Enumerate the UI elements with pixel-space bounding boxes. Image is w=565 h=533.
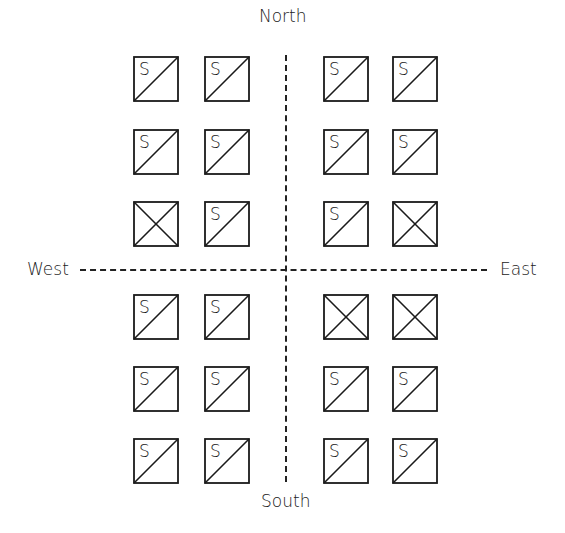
s-diagonal-box-icon: S (133, 56, 179, 102)
crossed-box-icon (392, 201, 438, 247)
label-north: North (259, 8, 307, 25)
svg-text:S: S (329, 59, 340, 79)
s-diagonal-box-icon: S (392, 366, 438, 412)
s-diagonal-box-icon: S (323, 129, 369, 175)
svg-text:S: S (329, 369, 340, 389)
s-diagonal-box-icon: S (204, 438, 250, 484)
s-diagonal-box-icon: S (392, 438, 438, 484)
svg-text:S: S (329, 204, 340, 224)
svg-text:S: S (398, 59, 409, 79)
s-diagonal-box-icon: S (204, 129, 250, 175)
label-east: East (500, 261, 537, 278)
s-diagonal-box-icon: S (323, 56, 369, 102)
label-south: South (261, 493, 310, 510)
svg-text:S: S (398, 369, 409, 389)
s-diagonal-box-icon: S (323, 438, 369, 484)
svg-text:S: S (139, 441, 150, 461)
svg-text:S: S (139, 59, 150, 79)
svg-text:S: S (210, 132, 221, 152)
svg-text:S: S (329, 441, 340, 461)
svg-text:S: S (210, 59, 221, 79)
svg-text:S: S (329, 132, 340, 152)
svg-text:S: S (210, 204, 221, 224)
s-diagonal-box-icon: S (323, 366, 369, 412)
crossed-box-icon (392, 294, 438, 340)
s-diagonal-box-icon: S (204, 366, 250, 412)
s-diagonal-box-icon: S (323, 201, 369, 247)
s-diagonal-box-icon: S (133, 294, 179, 340)
svg-text:S: S (139, 132, 150, 152)
svg-text:S: S (210, 369, 221, 389)
svg-text:S: S (398, 132, 409, 152)
svg-text:S: S (139, 297, 150, 317)
s-diagonal-box-icon: S (133, 438, 179, 484)
s-diagonal-box-icon: S (204, 56, 250, 102)
s-diagonal-box-icon: S (133, 366, 179, 412)
svg-text:S: S (398, 441, 409, 461)
crossed-box-icon (133, 201, 179, 247)
label-west: West (27, 261, 69, 278)
s-diagonal-box-icon: S (204, 294, 250, 340)
s-diagonal-box-icon: S (392, 56, 438, 102)
crossed-box-icon (323, 294, 369, 340)
svg-text:S: S (210, 441, 221, 461)
s-diagonal-box-icon: S (133, 129, 179, 175)
s-diagonal-box-icon: S (392, 129, 438, 175)
svg-text:S: S (210, 297, 221, 317)
s-diagonal-box-icon: S (204, 201, 250, 247)
west-east-axis (80, 269, 487, 271)
svg-text:S: S (139, 369, 150, 389)
